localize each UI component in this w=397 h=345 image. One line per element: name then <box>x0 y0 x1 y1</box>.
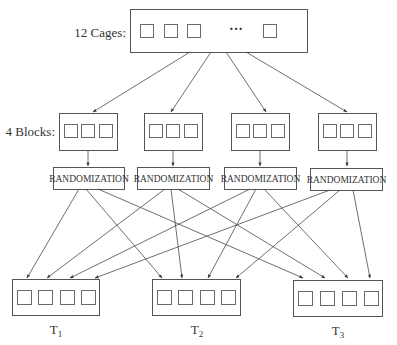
randomization-group: RANDOMIZATION RANDOMIZATION RANDOMIZATIO… <box>49 168 386 191</box>
edges-blocks-to-randomization <box>88 150 347 166</box>
blocks-group: 4 Blocks: <box>6 114 377 151</box>
randomization-box-3: RANDOMIZATION <box>221 168 301 190</box>
treatments-group: T1 T2 T3 <box>13 280 383 341</box>
cage-square <box>188 25 201 38</box>
svg-text:RANDOMIZATION: RANDOMIZATION <box>307 175 387 185</box>
treatment-3: T3 <box>294 281 383 341</box>
edges-cages-to-blocks <box>93 52 347 112</box>
svg-text:RANDOMIZATION: RANDOMIZATION <box>221 174 301 184</box>
randomization-box-1: RANDOMIZATION <box>49 168 129 190</box>
cages-group: 12 Cages: ··· <box>74 10 307 53</box>
treatment-2: T2 <box>153 280 241 340</box>
block-2 <box>145 114 203 151</box>
treatment-1-label: T1 <box>50 322 62 339</box>
randomization-box-4: RANDOMIZATION <box>307 169 387 191</box>
cage-square <box>141 25 154 38</box>
edges-randomization-to-treatments <box>27 189 370 278</box>
block-3 <box>232 114 290 151</box>
treatment-2-label: T2 <box>191 322 203 339</box>
cages-label: 12 Cages: <box>74 25 126 40</box>
svg-text:RANDOMIZATION: RANDOMIZATION <box>134 174 214 184</box>
svg-text:RANDOMIZATION: RANDOMIZATION <box>49 174 129 184</box>
cages-ellipsis: ··· <box>229 22 243 37</box>
blocks-label: 4 Blocks: <box>6 124 55 139</box>
cage-square <box>264 25 277 38</box>
cages-box <box>131 10 308 53</box>
block-4 <box>319 114 377 151</box>
cage-square <box>165 25 178 38</box>
treatment-1: T1 <box>13 280 100 340</box>
block-1 <box>60 114 118 151</box>
randomization-box-2: RANDOMIZATION <box>134 168 214 190</box>
treatment-3-label: T3 <box>332 323 345 340</box>
randomized-block-design-diagram: 12 Cages: ··· 4 Blocks: <box>0 0 397 345</box>
